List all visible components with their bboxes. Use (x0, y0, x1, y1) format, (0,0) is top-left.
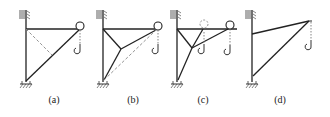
panel-label-a: (a) (48, 94, 59, 105)
panel-label-d: (d) (274, 94, 286, 105)
panel-label-b: (b) (127, 94, 139, 105)
panel-a (20, 10, 84, 88)
panel-b (97, 10, 162, 88)
panel-label-c: (c) (197, 94, 208, 105)
panel-c (171, 10, 237, 88)
panel-d (246, 10, 312, 88)
crane-frame-figure: (a) (b) (c) (d) (0, 0, 330, 117)
